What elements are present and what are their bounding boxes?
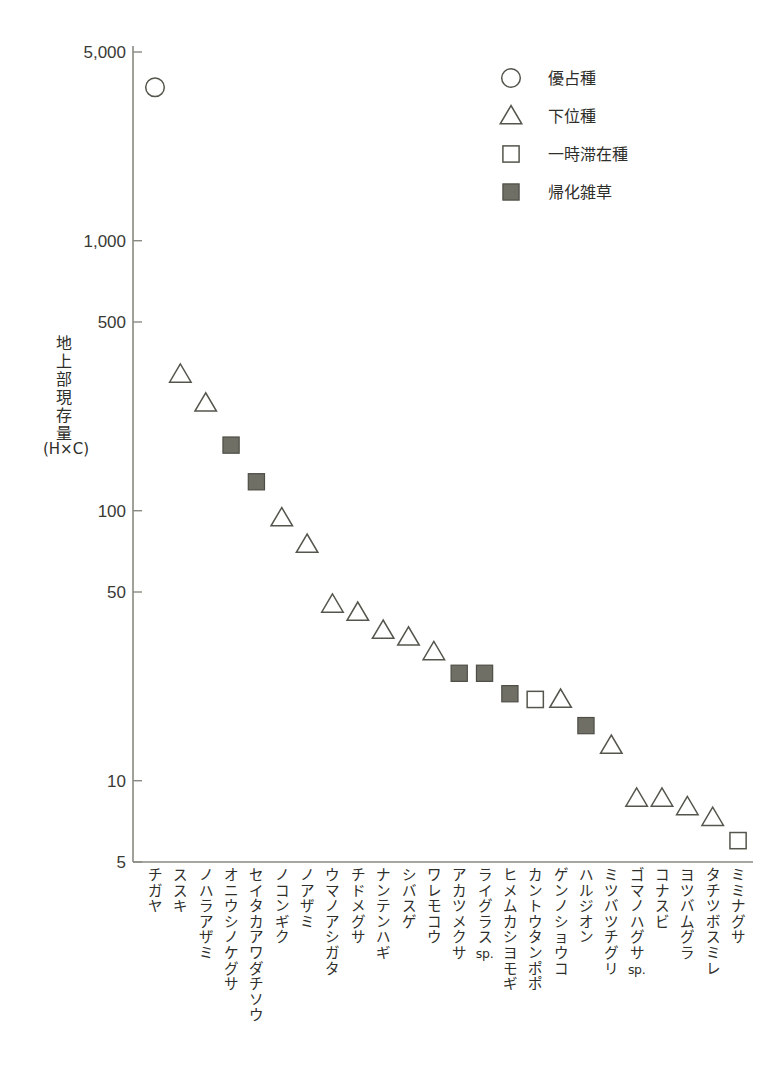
data-point-marker[interactable] bbox=[347, 602, 369, 620]
x-label-char: ミ bbox=[296, 915, 318, 931]
x-label-char: ス bbox=[474, 930, 496, 946]
data-point-marker[interactable] bbox=[248, 474, 264, 490]
x-label-char: ザ bbox=[296, 899, 318, 915]
data-point-marker[interactable] bbox=[223, 437, 239, 453]
data-point-marker[interactable] bbox=[146, 78, 165, 97]
x-axis-category-label: タチツボスミレ bbox=[702, 868, 724, 977]
x-label-char: ミ bbox=[727, 868, 749, 884]
x-label-char: シ bbox=[398, 868, 420, 884]
x-axis-category-label: ススキ bbox=[169, 868, 191, 915]
y-tick-label: 50 bbox=[107, 583, 126, 602]
x-label-char: タ bbox=[245, 899, 267, 915]
x-label-char: ク bbox=[271, 930, 293, 946]
x-label-char: ツ bbox=[448, 899, 470, 915]
x-label-char: ケ bbox=[220, 946, 242, 962]
x-label-char: ス bbox=[702, 930, 724, 946]
x-axis-category-label: ウマノアシガタ bbox=[321, 868, 343, 977]
x-label-species-abbrev: sp. bbox=[474, 946, 496, 962]
x-label-char: ノ bbox=[626, 899, 648, 915]
x-label-char: ポ bbox=[524, 977, 546, 993]
x-label-char: セ bbox=[245, 868, 267, 884]
legend-label: 帰化雑草 bbox=[548, 183, 612, 202]
x-label-char: ム bbox=[499, 899, 521, 915]
x-label-char: ヨ bbox=[499, 946, 521, 962]
x-label-char: ヨ bbox=[676, 868, 698, 884]
y-tick-label: 500 bbox=[98, 313, 126, 332]
data-point-marker[interactable] bbox=[451, 665, 467, 681]
data-point-marker[interactable] bbox=[626, 788, 648, 806]
x-label-char: サ bbox=[626, 946, 648, 962]
x-label-char: イ bbox=[245, 884, 267, 900]
x-label-char: レ bbox=[702, 962, 724, 978]
data-point-marker[interactable] bbox=[550, 689, 572, 707]
x-label-char: ラ bbox=[676, 946, 698, 962]
x-label-char: ビ bbox=[651, 915, 673, 931]
data-point-marker[interactable] bbox=[170, 364, 192, 382]
x-label-char: レ bbox=[423, 884, 445, 900]
x-label-char: チ bbox=[702, 884, 724, 900]
x-label-char: カ bbox=[245, 915, 267, 931]
x-label-char: タ bbox=[702, 868, 724, 884]
data-point-marker[interactable] bbox=[372, 620, 394, 638]
x-axis-category-label: ライグラスsp. bbox=[474, 868, 496, 962]
x-label-char: ミ bbox=[195, 946, 217, 962]
x-label-char: ギ bbox=[499, 977, 521, 993]
x-axis-category-label: ゴマノハグサsp. bbox=[626, 868, 648, 977]
x-label-char: ア bbox=[245, 930, 267, 946]
x-label-char: ノ bbox=[321, 899, 343, 915]
x-label-char: チ bbox=[600, 930, 622, 946]
y-axis-title-char: 上 bbox=[47, 353, 81, 371]
x-label-char: チ bbox=[347, 868, 369, 884]
x-label-char: ア bbox=[195, 915, 217, 931]
x-label-char: ア bbox=[296, 884, 318, 900]
x-label-char: ツ bbox=[702, 899, 724, 915]
data-point-marker[interactable] bbox=[601, 735, 623, 753]
x-label-char: ポ bbox=[524, 962, 546, 978]
x-label-char: シ bbox=[321, 930, 343, 946]
x-label-char: メ bbox=[499, 884, 521, 900]
x-axis-category-label: ミツバツチグリ bbox=[600, 868, 622, 977]
x-axis-category-label: ノコンギク bbox=[271, 868, 293, 946]
x-label-char: ギ bbox=[271, 915, 293, 931]
x-axis-category-label: ヨツバムグラ bbox=[676, 868, 698, 962]
data-point-marker[interactable] bbox=[476, 665, 492, 681]
y-axis-title-char: 地 bbox=[47, 335, 81, 353]
x-label-char: バ bbox=[600, 899, 622, 915]
data-point-marker[interactable] bbox=[502, 686, 518, 702]
x-label-char: ミ bbox=[702, 946, 724, 962]
data-point-marker[interactable] bbox=[296, 534, 318, 552]
legend-marker-3 bbox=[503, 184, 519, 200]
data-point-marker[interactable] bbox=[677, 796, 699, 814]
x-label-char: ス bbox=[398, 899, 420, 915]
x-label-char: ギ bbox=[372, 946, 394, 962]
legend-label: 下位種 bbox=[548, 107, 596, 126]
x-label-char: ク bbox=[448, 930, 470, 946]
x-axis-category-label: アカツメクサ bbox=[448, 868, 470, 962]
data-point-marker[interactable] bbox=[730, 833, 746, 849]
x-label-char: グ bbox=[220, 962, 242, 978]
data-point-marker[interactable] bbox=[423, 641, 445, 659]
data-point-marker[interactable] bbox=[195, 393, 217, 411]
data-point-marker[interactable] bbox=[651, 788, 673, 806]
data-point-marker[interactable] bbox=[322, 594, 344, 612]
y-axis-title: 地上部現存量 bbox=[47, 335, 81, 443]
x-label-char: シ bbox=[499, 930, 521, 946]
data-point-marker[interactable] bbox=[527, 691, 543, 707]
legend-label: 優占種 bbox=[548, 69, 596, 88]
x-label-char: ス bbox=[169, 868, 191, 884]
data-point-marker[interactable] bbox=[271, 508, 293, 526]
x-label-char: ウ bbox=[245, 1008, 267, 1024]
x-label-char: リ bbox=[600, 962, 622, 978]
x-label-char: ラ bbox=[195, 899, 217, 915]
x-label-char: ラ bbox=[474, 868, 496, 884]
x-label-char: グ bbox=[347, 915, 369, 931]
x-label-char: ミ bbox=[727, 884, 749, 900]
x-label-char: ン bbox=[271, 899, 293, 915]
x-label-char: マ bbox=[626, 884, 648, 900]
x-label-char: ナ bbox=[651, 884, 673, 900]
x-label-char: カ bbox=[524, 868, 546, 884]
data-point-marker[interactable] bbox=[702, 807, 724, 825]
data-point-marker[interactable] bbox=[578, 718, 594, 734]
data-point-marker[interactable] bbox=[398, 627, 420, 645]
legend-label: 一時滞在種 bbox=[548, 145, 628, 164]
